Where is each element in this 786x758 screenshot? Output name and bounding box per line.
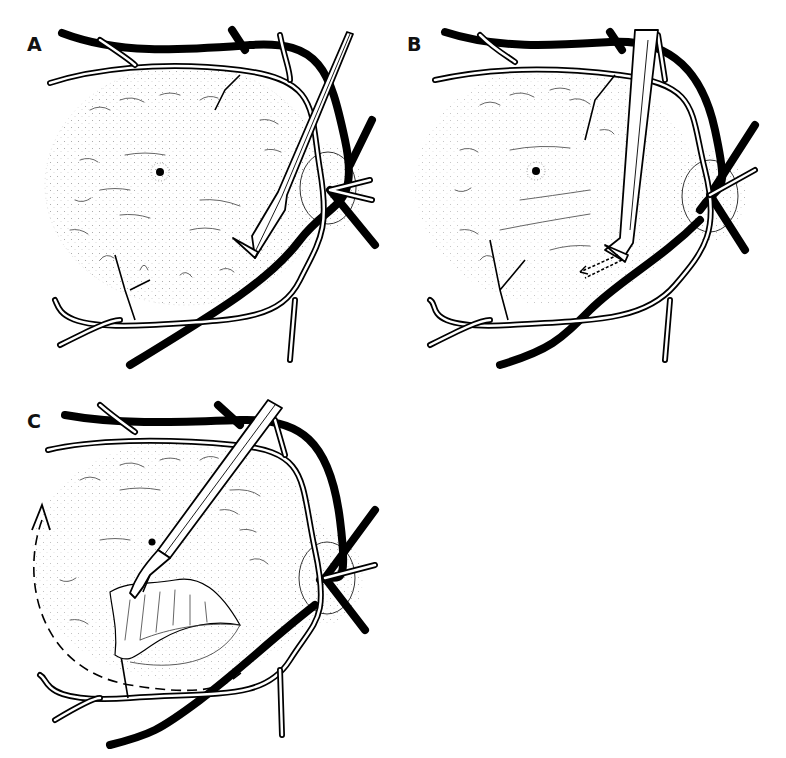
retina-illustration-b: [400, 0, 786, 380]
retina-illustration-c: [0, 380, 400, 758]
fovea: [156, 168, 164, 176]
retina-illustration-a: [0, 0, 400, 380]
panel-b: B: [400, 0, 786, 380]
fovea: [532, 167, 540, 175]
empty-quadrant: [400, 380, 786, 758]
panel-c: C: [0, 380, 400, 758]
fovea: [149, 539, 156, 546]
panel-a: A: [0, 0, 400, 380]
